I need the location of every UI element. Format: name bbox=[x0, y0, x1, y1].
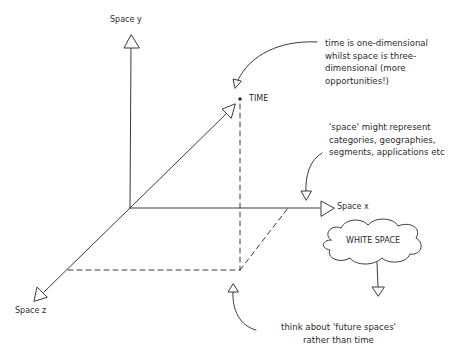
z-axis-arrowhead-icon bbox=[34, 287, 47, 301]
time-note-arrowhead-icon bbox=[233, 79, 241, 88]
z-axis bbox=[34, 208, 130, 301]
time-note-arrow bbox=[233, 42, 317, 88]
time-note-line: dimensional (more bbox=[325, 62, 428, 75]
z-axis-label: Space z bbox=[15, 306, 46, 316]
space-note-line: 'space' might represent bbox=[329, 121, 445, 134]
y-axis-label: Space y bbox=[110, 15, 142, 25]
x-axis-arrowhead-icon bbox=[321, 201, 334, 216]
y-axis bbox=[124, 35, 139, 208]
projection-lines bbox=[68, 104, 288, 270]
time-note-line: opportunities!) bbox=[325, 75, 428, 88]
future-note-line: rather than time bbox=[266, 334, 411, 347]
future-note-line: think about 'future spaces' bbox=[266, 321, 411, 334]
space-note: 'space' might represent categories, geog… bbox=[329, 121, 445, 159]
x-axis bbox=[130, 201, 334, 216]
space-note-line: segments, applications etc bbox=[329, 146, 445, 159]
time-point-label: TIME bbox=[249, 94, 268, 104]
future-note: think about 'future spaces' rather than … bbox=[266, 321, 411, 346]
space-note-arrowhead-icon bbox=[301, 191, 311, 200]
y-axis-arrowhead-icon bbox=[124, 35, 139, 48]
time-note: time is one-dimensional whilst space is … bbox=[325, 37, 428, 87]
x-axis-label: Space x bbox=[337, 202, 369, 212]
time-point-icon bbox=[238, 97, 242, 101]
time-note-line: whilst space is three- bbox=[325, 50, 428, 63]
space-note-line: categories, geographies, bbox=[329, 134, 445, 147]
white-space-cloud bbox=[323, 219, 421, 296]
future-note-arrow bbox=[228, 284, 256, 330]
future-note-arrowhead-icon bbox=[228, 284, 238, 292]
time-note-line: time is one-dimensional bbox=[325, 37, 428, 50]
white-space-label: WHITE SPACE bbox=[346, 236, 400, 246]
space-note-arrow bbox=[301, 153, 322, 200]
time-axis bbox=[130, 104, 235, 208]
cloud-arrowhead-icon bbox=[372, 287, 384, 296]
